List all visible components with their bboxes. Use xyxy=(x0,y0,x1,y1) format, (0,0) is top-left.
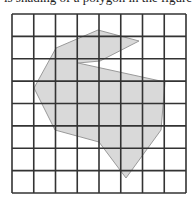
square-grid xyxy=(12,14,186,193)
grid-figure xyxy=(0,0,196,203)
